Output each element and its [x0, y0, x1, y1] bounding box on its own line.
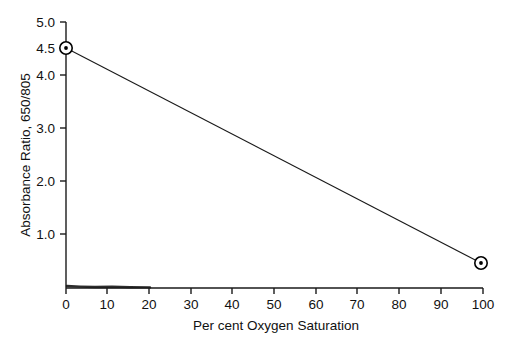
x-tick-label-90: 90 — [433, 297, 448, 312]
x-tick-label-0: 0 — [62, 297, 70, 312]
y-tick-label-4-0: 4.0 — [36, 68, 55, 83]
x-tick-label-10: 10 — [99, 297, 114, 312]
x-axis-title: Per cent Oxygen Saturation — [193, 318, 359, 333]
marker-center-dot-icon — [479, 261, 483, 265]
y-axis-title: Absorbance Ratio, 650/805 — [18, 73, 33, 237]
x-tick-label-100: 100 — [472, 297, 495, 312]
y-tick-label-4-5: 4.5 — [36, 41, 55, 56]
data-point-marker-1[interactable] — [475, 257, 487, 269]
baseline-artifact — [67, 286, 150, 287]
x-tick-label-40: 40 — [224, 297, 239, 312]
x-tick-label-60: 60 — [308, 297, 323, 312]
data-point-marker-0[interactable] — [60, 42, 72, 54]
marker-center-dot-icon — [64, 46, 68, 50]
x-tick-label-80: 80 — [391, 297, 406, 312]
y-tick-label-3-0: 3.0 — [36, 121, 55, 136]
x-tick-label-70: 70 — [349, 297, 364, 312]
line-chart-canvas: 5.0 4.5 4.0 3.0 2.0 1.0 0 10 20 30 — [0, 0, 520, 338]
x-tick-label-30: 30 — [183, 297, 198, 312]
y-tick-label-5-0: 5.0 — [36, 15, 55, 30]
chart-figure: 5.0 4.5 4.0 3.0 2.0 1.0 0 10 20 30 — [0, 0, 520, 338]
x-tick-label-50: 50 — [266, 297, 281, 312]
y-tick-label-2-0: 2.0 — [36, 174, 55, 189]
y-tick-label-1-0: 1.0 — [36, 227, 55, 242]
x-tick-label-20: 20 — [141, 297, 156, 312]
